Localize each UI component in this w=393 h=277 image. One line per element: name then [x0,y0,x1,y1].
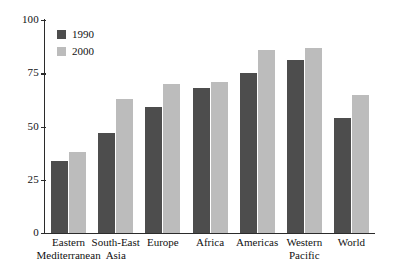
bar-1990-eastern-mediterranean[interactable] [51,161,68,233]
bar-1990-americas[interactable] [240,73,257,233]
bar-1990-africa[interactable] [193,88,210,233]
bar-2000-europe[interactable] [163,84,180,233]
bar-2000-americas[interactable] [258,50,275,233]
bar-1990-europe[interactable] [145,107,162,233]
bar-2000-western-pacific[interactable] [305,48,322,233]
bar-group [193,20,228,233]
bar-group [240,20,275,233]
bar-1990-south-east-asia[interactable] [98,133,115,233]
bar-group [287,20,322,233]
y-tick-label: 100 [9,14,39,25]
category-label: World [314,236,389,249]
bar-2000-africa[interactable] [211,82,228,233]
bar-group [51,20,86,233]
bar-group [145,20,180,233]
plot-area [45,20,375,233]
bar-2000-eastern-mediterranean[interactable] [69,152,86,233]
bar-chart: 0255075100 1990 2000 Eastern Mediterrane… [0,0,393,277]
bar-2000-world[interactable] [352,95,369,233]
bar-group [334,20,369,233]
bar-1990-western-pacific[interactable] [287,60,304,233]
bar-2000-south-east-asia[interactable] [116,99,133,233]
y-tick-label: 25 [9,174,39,185]
y-tick-label: 75 [9,67,39,78]
bar-group [98,20,133,233]
bar-1990-world[interactable] [334,118,351,233]
y-tick-mark [41,233,46,234]
y-tick-label: 50 [9,121,39,132]
